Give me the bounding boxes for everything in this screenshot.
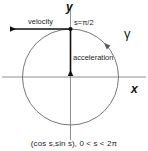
acceleration-vector-label: acceleration	[73, 54, 113, 62]
curve-label-gamma: γ	[124, 27, 131, 40]
x-axis-label: x	[131, 83, 138, 95]
point-parameter-label: s=π/2	[74, 19, 94, 27]
point-marker-s-pi-over-2	[68, 27, 72, 31]
y-axis-label: y	[66, 1, 73, 13]
figure-caption: (cos s,sin s), 0 < s < 2π	[0, 139, 148, 148]
unit-circle-diagram: y x γ velocity acceleration s=π/2 (cos s…	[0, 0, 148, 151]
velocity-vector-label: velocity	[28, 18, 53, 26]
